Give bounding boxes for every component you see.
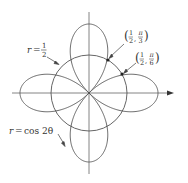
svg-text:=: =	[33, 45, 41, 55]
svg-text:π: π	[149, 51, 155, 59]
polar-diagram: r = 1 2 r = cos 2θ ( 1 2 , π 3 ) ( 1 2 ,…	[0, 0, 188, 183]
svg-text:(: (	[135, 51, 140, 65]
svg-text:): )	[144, 29, 149, 43]
svg-text:2: 2	[140, 59, 144, 67]
svg-text:): )	[155, 51, 160, 65]
svg-text:r: r	[9, 126, 14, 136]
label-point-pi-6: ( 1 2 , π 6 )	[135, 51, 160, 67]
svg-text:1: 1	[42, 42, 46, 50]
x-axis-arrow-icon	[167, 91, 174, 96]
svg-text:3: 3	[139, 37, 143, 45]
svg-text:,: ,	[134, 35, 136, 43]
svg-text:π: π	[138, 29, 144, 37]
svg-text:=: =	[15, 126, 23, 136]
svg-text:2: 2	[42, 51, 46, 59]
svg-text:1: 1	[140, 51, 144, 59]
svg-text:cos 2θ: cos 2θ	[24, 126, 53, 136]
label-circle: r = 1 2	[27, 42, 47, 59]
svg-text:(: (	[124, 29, 129, 43]
svg-text:1: 1	[129, 29, 133, 37]
svg-text:2: 2	[129, 37, 133, 45]
svg-text:r: r	[27, 45, 32, 55]
label-point-pi-3: ( 1 2 , π 3 )	[124, 29, 149, 45]
point-pi-3	[106, 58, 109, 61]
label-rose: r = cos 2θ	[9, 126, 53, 136]
svg-text:6: 6	[150, 59, 154, 67]
svg-text:,: ,	[145, 57, 147, 65]
